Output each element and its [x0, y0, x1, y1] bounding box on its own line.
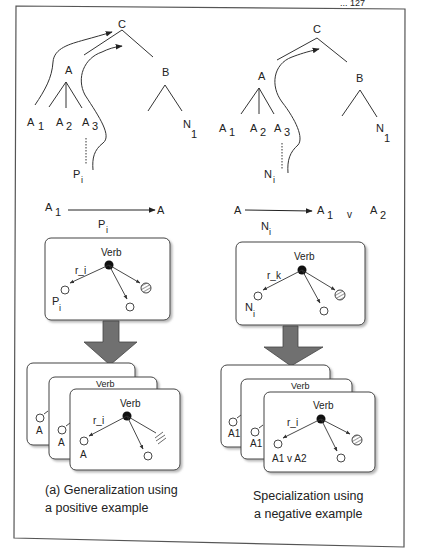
svg-text:A: A [27, 116, 35, 128]
svg-text:2: 2 [260, 126, 266, 138]
right-stacked-cards: A1 Verb A1 Verb r_i A1 v A2 [221, 365, 375, 472]
svg-text:Verb: Verb [101, 247, 122, 258]
left-tree-a2: A 2 [56, 116, 72, 132]
left-tree-node-a: A [65, 64, 73, 76]
svg-text:1: 1 [229, 126, 235, 138]
svg-text:3: 3 [92, 120, 98, 132]
svg-text:i: i [253, 309, 255, 319]
right-transform-arrow [264, 326, 323, 366]
diagram-canvas: ... 127 C A B A 1 A 2 A 3 N 1 P i [0, 0, 422, 550]
left-tree-node-b: B [162, 66, 169, 78]
svg-text:i: i [269, 227, 271, 237]
svg-text:Verb: Verb [294, 251, 315, 262]
right-tree-a2: A 2 [250, 122, 266, 138]
svg-text:A: A [234, 204, 242, 216]
svg-text:A: A [219, 122, 227, 134]
svg-text:r_i: r_i [93, 415, 104, 426]
right-caption-line1: Specialization using [253, 489, 364, 503]
right-rule: A A 1 v A 2 N i [234, 204, 386, 237]
svg-text:Verb: Verb [120, 398, 141, 409]
left-transform-arrow [84, 321, 137, 365]
svg-text:v: v [347, 209, 352, 220]
svg-text:A: A [274, 122, 282, 134]
svg-text:A: A [157, 204, 165, 216]
svg-text:A: A [80, 449, 87, 460]
svg-text:r_i: r_i [75, 265, 86, 276]
svg-text:1: 1 [384, 132, 390, 144]
right-tree-node-a: A [258, 70, 266, 82]
left-tree [35, 30, 182, 170]
right-tree-example: N i [264, 168, 275, 185]
right-caption-line2: a negative example [254, 507, 362, 521]
svg-text:N: N [245, 301, 253, 313]
svg-text:r_i: r_i [287, 417, 298, 428]
svg-text:P: P [98, 218, 105, 230]
svg-text:A: A [36, 425, 43, 436]
svg-text:A: A [45, 201, 53, 213]
left-tree-n1: N 1 [183, 118, 197, 140]
right-tree-a3: A 3 [274, 122, 290, 138]
svg-text:A: A [317, 204, 325, 216]
right-tree-node-b: B [356, 72, 363, 84]
svg-text:N: N [376, 122, 384, 134]
left-stacked-cards: A Verb A Verb r_i A [27, 363, 180, 470]
svg-text:i: i [59, 303, 61, 313]
svg-text:i: i [273, 175, 275, 185]
right-tree-root: C [313, 23, 321, 35]
left-tree-example: P i [73, 168, 83, 185]
svg-text:A: A [58, 437, 65, 448]
svg-text:A: A [250, 122, 258, 134]
svg-text:A: A [370, 204, 378, 216]
svg-text:1: 1 [327, 209, 333, 221]
svg-text:3: 3 [284, 126, 290, 138]
svg-text:A: A [56, 116, 64, 128]
svg-text:N: N [183, 118, 191, 130]
svg-text:Verb: Verb [291, 381, 310, 391]
svg-text:N: N [264, 168, 272, 180]
svg-text:A1: A1 [228, 428, 241, 439]
svg-text:i: i [106, 225, 108, 235]
svg-text:1: 1 [38, 120, 44, 132]
left-rule: A 1 A P i [45, 201, 165, 235]
left-caption-line1: (a) Generalization using [45, 483, 178, 497]
right-tree-n1: N 1 [376, 122, 390, 144]
svg-text:A: A [82, 116, 90, 128]
svg-text:r_k: r_k [267, 270, 282, 281]
left-tree-a3: A 3 [82, 116, 98, 132]
svg-text:2: 2 [380, 209, 386, 221]
svg-text:1: 1 [191, 128, 197, 140]
svg-text:N: N [261, 220, 269, 232]
svg-text:Verb: Verb [96, 379, 115, 389]
left-tree-a1: A 1 [27, 116, 44, 132]
svg-text:i: i [81, 175, 83, 185]
svg-text:P: P [73, 168, 80, 180]
svg-text:A1: A1 [250, 438, 263, 449]
svg-text:1: 1 [55, 206, 61, 218]
left-caption-line2: a positive example [45, 501, 149, 515]
page-header: ... 127 [340, 0, 365, 8]
left-frame-box: Verb r_i P i [45, 238, 170, 320]
right-tree [241, 38, 377, 173]
svg-text:Verb: Verb [313, 400, 334, 411]
right-tree-a1: A 1 [219, 122, 235, 138]
svg-text:2: 2 [66, 120, 72, 132]
left-tree-root: C [118, 18, 126, 30]
right-frame-box: Verb r_k N i [236, 242, 365, 325]
svg-text:A1 v A2: A1 v A2 [272, 453, 307, 464]
